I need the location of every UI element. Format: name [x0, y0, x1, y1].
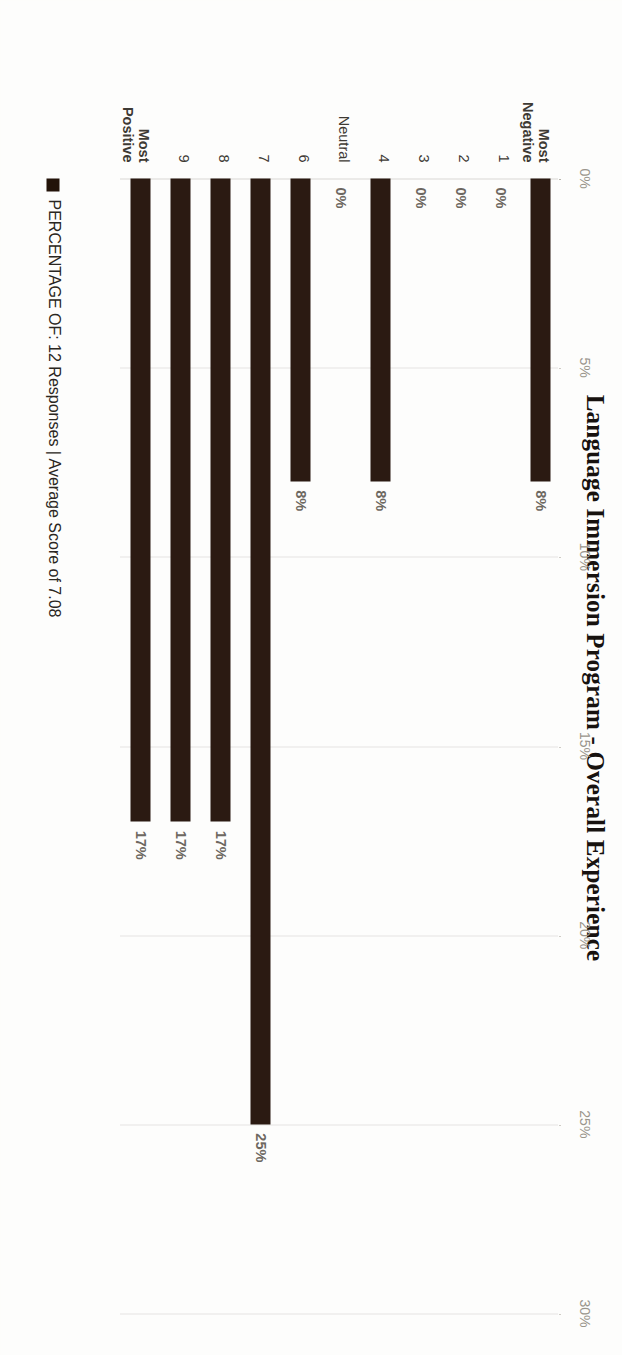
category-label: Neutral [334, 115, 350, 162]
bar [530, 178, 551, 481]
bar-value-label: 8% [292, 490, 308, 511]
rotated-chart-canvas: Language Immersion Program - Overall Exp… [0, 0, 622, 1355]
category-label: 1 [494, 154, 510, 162]
bar-value-label: 0% [492, 187, 508, 208]
category-label: 6 [294, 154, 310, 162]
x-tick-label: 0% [576, 168, 592, 188]
bar [250, 178, 271, 1124]
bar-value-label: 25% [252, 1133, 268, 1162]
scanned-page: Language Immersion Program - Overall Exp… [0, 0, 622, 1355]
x-tick-label: 20% [576, 921, 592, 949]
legend-label: PERCENTAGE OF: 12 Responses | Average Sc… [44, 199, 62, 617]
x-axis-tick-labels: 0%5%10%15%20%25%30% [566, 178, 592, 1313]
bar [370, 178, 391, 481]
bar-series: 8%0%0%0%8%0%8%25%17%17%17% [120, 178, 560, 1313]
category-label: 4 [374, 154, 390, 162]
bar-value-label: 0% [412, 187, 428, 208]
category-axis-labels: Most Negative1234Neutral6789Most Positiv… [120, 0, 560, 170]
bar [210, 178, 231, 821]
x-tick-label: 10% [576, 542, 592, 570]
category-label: 8 [214, 154, 230, 162]
bar-value-label: 17% [172, 830, 188, 859]
bar-value-label: 8% [532, 490, 548, 511]
x-tick-label: 5% [576, 357, 592, 377]
category-label: 7 [254, 154, 270, 162]
category-label: 2 [454, 154, 470, 162]
bar-value-label: 0% [452, 187, 468, 208]
x-tick-label: 25% [576, 1110, 592, 1138]
bar-value-label: 0% [332, 187, 348, 208]
category-label: Most Positive [119, 106, 150, 162]
bar-chart: Language Immersion Program - Overall Exp… [0, 0, 622, 1355]
category-label: Most Negative [519, 102, 550, 162]
x-tick-label: 15% [576, 731, 592, 759]
legend: PERCENTAGE OF: 12 Responses | Average Sc… [44, 178, 62, 617]
bar-value-label: 8% [372, 490, 388, 511]
bar-value-label: 17% [212, 830, 228, 859]
category-label: 3 [414, 154, 430, 162]
bar [170, 178, 191, 821]
plot-area: 8%0%0%0%8%0%8%25%17%17%17% [120, 178, 560, 1313]
bar-value-label: 17% [132, 830, 148, 859]
bar [290, 178, 311, 481]
x-tick-label: 30% [576, 1299, 592, 1327]
legend-swatch-icon [47, 178, 60, 191]
bar [130, 178, 151, 821]
category-label: 9 [174, 154, 190, 162]
